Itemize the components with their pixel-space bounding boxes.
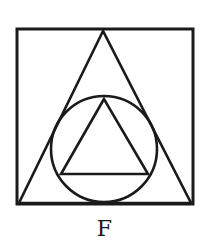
outer-square [17,29,193,204]
large-triangle [19,31,191,203]
inscribed-circle [51,96,157,202]
inner-triangle [61,99,148,174]
diagram-figure: F [0,0,209,248]
figure-label: F [0,216,209,242]
diagram-canvas [0,0,209,248]
